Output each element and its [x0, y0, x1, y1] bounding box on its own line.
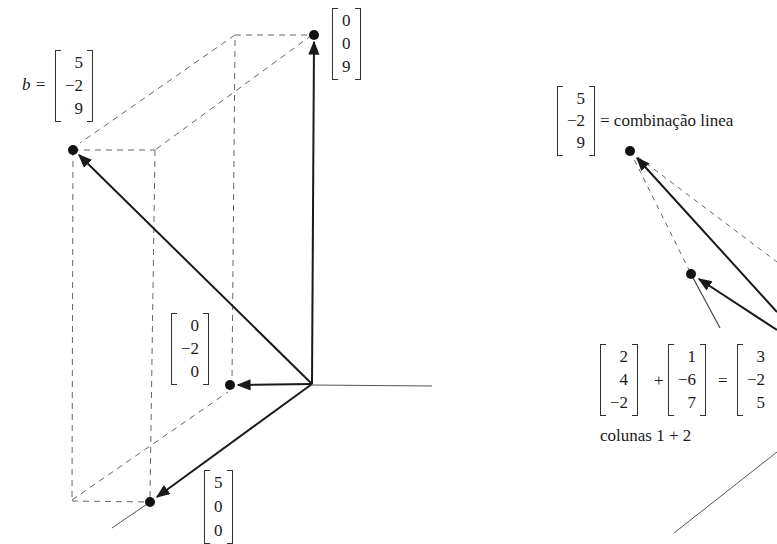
axis-x-extension: [112, 502, 150, 528]
dashed-guides: [630, 151, 777, 274]
axis-right: [674, 452, 777, 533]
point-b-right: [625, 146, 635, 156]
linear-combination-figure: [0, 0, 777, 544]
right-b-matrix: 5 −2 9: [557, 86, 595, 156]
plus-sign: +: [654, 371, 664, 391]
vector-b-right: [637, 158, 777, 312]
result-matrix: 3 −2 5: [737, 344, 769, 416]
equals-sign: =: [718, 371, 728, 391]
vector-z-matrix: 0 0 9: [332, 8, 361, 80]
left-3d-diagram: [68, 30, 432, 528]
point-x: [145, 497, 155, 507]
linear-combination-text: = combinação linea: [600, 112, 733, 129]
col2-matrix: 1 −6 7: [668, 344, 706, 416]
vector-y-matrix: 0 −2 0: [171, 313, 209, 385]
vector-x-matrix: 5 0 0: [204, 470, 233, 544]
right-diagram: [625, 146, 777, 533]
vector-x: [157, 384, 312, 497]
b-label: b =: [22, 76, 46, 93]
point-y: [225, 380, 235, 390]
point-col-sum: [686, 269, 696, 279]
point-b: [68, 145, 78, 155]
columns-caption: colunas 1 + 2: [600, 427, 691, 444]
col1-matrix: 2 4 −2: [600, 344, 638, 416]
vector-b-matrix: 5 −2 9: [55, 50, 93, 122]
axis-y-positive: [312, 385, 432, 386]
vector-y: [238, 384, 312, 385]
vector-z: [312, 42, 314, 384]
vector-col-sum: [699, 279, 777, 330]
dashed-box: [72, 35, 312, 502]
point-z: [309, 30, 319, 40]
